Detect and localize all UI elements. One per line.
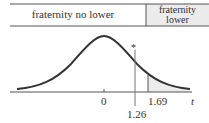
critical-label: 1.69 [148, 96, 167, 107]
lower-label-line2: lower [146, 15, 209, 25]
density-curve [17, 36, 190, 89]
observed-star: * [131, 42, 136, 53]
no-lower-label: fraternity no lower [0, 9, 146, 20]
observed-label: 1.26 [127, 109, 146, 120]
axis-label: t [191, 96, 194, 107]
t-distribution-figure: fraternity no lower fraternity lower * 0… [0, 0, 209, 123]
zero-label: 0 [101, 96, 107, 107]
